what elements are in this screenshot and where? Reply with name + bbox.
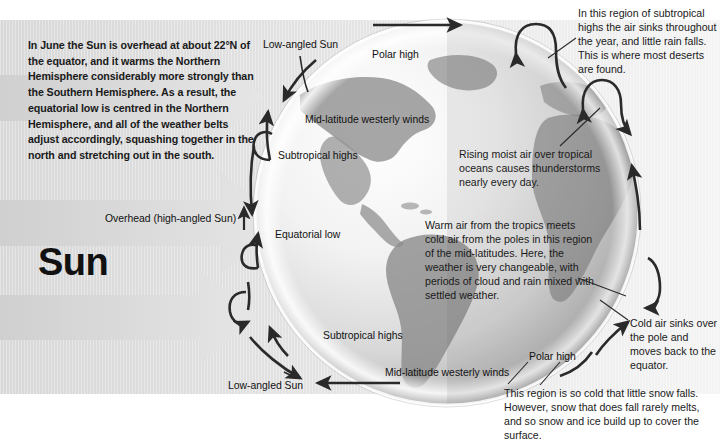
arrow-hadley-south-left xyxy=(230,282,250,324)
label-equatorial-low: Equatorial low xyxy=(275,228,340,242)
callout-polar-snow: This region is so cold that little snow … xyxy=(504,387,720,443)
label-mid-latitude-westerlies-top: Mid-latitude westerly winds xyxy=(305,113,429,127)
label-low-angled-sun-bottom: Low-angled Sun xyxy=(228,379,303,393)
leader-line-rising xyxy=(560,108,600,146)
arrow-ferrel-south-rise xyxy=(270,328,288,356)
leader-line-cold xyxy=(600,300,628,320)
arrow-hadley-north-descend xyxy=(583,80,630,134)
arrow-polar-front-south-right xyxy=(596,322,628,355)
callout-cold-air-sinks: Cold air sinks over the pole and moves b… xyxy=(630,317,720,373)
arrow-polar-front-south-left xyxy=(250,337,300,378)
label-mid-latitude-westerlies-bottom: Mid-latitude westerly winds xyxy=(385,366,509,380)
arrow-equatorial-rising-left xyxy=(257,234,259,268)
callout-deserts: In this region of subtropical highs the … xyxy=(578,7,718,77)
label-polar-high-top: Polar high xyxy=(372,48,419,62)
arrow-hadley-south-right xyxy=(646,258,660,308)
leader-line-deserts xyxy=(548,38,576,58)
callout-mid-latitudes: Warm air from the tropics meets cold air… xyxy=(425,219,597,303)
arrow-polar-easterlies-north xyxy=(284,60,316,100)
intro-paragraph: In June the Sun is overhead at about 22°… xyxy=(28,38,260,164)
label-subtropical-highs-top: Subtropical highs xyxy=(278,149,358,163)
label-subtropical-highs-bottom: Subtropical highs xyxy=(323,329,403,343)
arrow-equatorial-rising-right xyxy=(632,166,640,230)
sun-title: Sun xyxy=(38,238,108,287)
leader-line-polar-high-bottom xyxy=(508,362,528,384)
arrow-polar-cell-north xyxy=(516,24,566,88)
callout-rising-moist-air: Rising moist air over tropical oceans ca… xyxy=(459,148,609,190)
arrow-ferrel-north-rise xyxy=(267,112,270,160)
label-low-angled-sun-top: Low-angled Sun xyxy=(263,38,338,52)
label-polar-high-bottom: Polar high xyxy=(529,350,576,364)
leader-line-snow xyxy=(540,362,560,385)
label-overhead-sun: Overhead (high-angled Sun) xyxy=(105,212,236,226)
